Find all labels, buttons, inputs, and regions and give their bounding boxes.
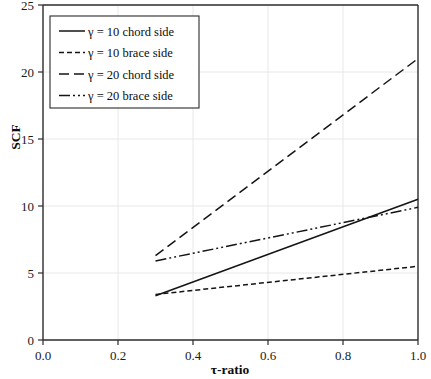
y-tick-label: 5 [28,266,35,281]
y-tick-label: 10 [21,199,34,214]
legend-label-3: γ = 20 chord side [87,68,175,82]
series-line-4 [156,207,419,261]
legend-label-2: γ = 10 brace side [87,46,173,60]
y-tick-label: 20 [21,65,34,80]
x-tick-label: 0.0 [35,348,51,363]
x-tick-label: 0.6 [260,348,277,363]
chart-legend: γ = 10 chord sideγ = 10 brace sideγ = 20… [50,16,199,108]
y-axis-title: SCF [8,124,23,150]
x-tick-label: 1.0 [410,348,426,363]
y-tick-label: 0 [28,333,35,348]
y-tick-label: 25 [21,0,34,13]
scf-tau-ratio-chart: 0510152025 0.00.20.40.60.81.0 SCF τ-rati… [0,0,431,379]
series-line-2 [156,266,419,294]
x-axis-ticks: 0.00.20.40.60.81.0 [35,340,426,363]
x-tick-label: 0.2 [110,348,126,363]
x-axis-title: τ-ratio [211,362,250,377]
series-line-1 [156,199,419,295]
legend-label-1: γ = 10 chord side [87,25,175,39]
x-tick-label: 0.8 [335,348,351,363]
x-tick-label: 0.4 [185,348,202,363]
legend-label-4: γ = 20 brace side [87,89,173,103]
y-axis-ticks: 0510152025 [21,0,43,348]
chart-canvas: 0510152025 0.00.20.40.60.81.0 SCF τ-rati… [0,0,431,379]
